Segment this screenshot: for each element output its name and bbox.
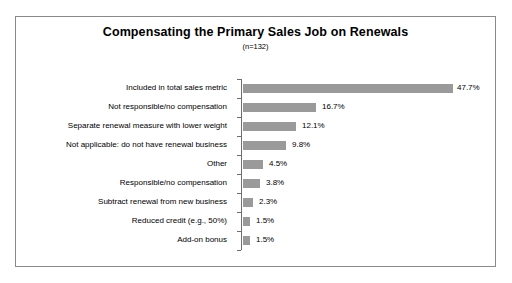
bar-value-label: 2.3%: [259, 196, 277, 208]
axis-tick: [237, 231, 241, 232]
bar[interactable]: [243, 236, 250, 245]
category-label: Other: [207, 158, 227, 170]
category-label: Subtract renewal from new business: [98, 196, 227, 208]
category-label: Add-on bonus: [177, 234, 227, 246]
axis-tick: [237, 98, 241, 99]
bar[interactable]: [243, 198, 253, 207]
axis-tick: [237, 174, 241, 175]
bar-row: Separate renewal measure with lower weig…: [16, 117, 495, 136]
chart-frame: Compensating the Primary Sales Job on Re…: [15, 16, 496, 267]
axis-tick: [237, 193, 241, 194]
bar-value-label: 47.7%: [457, 82, 480, 94]
axis-tick-end: [237, 250, 241, 251]
plot-area: Included in total sales metric 47.7% Not…: [16, 17, 495, 266]
bar[interactable]: [243, 217, 250, 226]
category-label: Separate renewal measure with lower weig…: [68, 120, 227, 132]
bar-row: Responsible/no compensation 3.8%: [16, 174, 495, 193]
bar-value-label: 1.5%: [256, 215, 274, 227]
axis-tick: [237, 117, 241, 118]
axis-tick: [237, 212, 241, 213]
axis-tick: [237, 79, 241, 80]
bar-row: Not responsible/no compensation 16.7%: [16, 98, 495, 117]
category-label: Responsible/no compensation: [120, 177, 227, 189]
bar-row: Other 4.5%: [16, 155, 495, 174]
bar[interactable]: [243, 141, 286, 150]
bar[interactable]: [243, 160, 263, 169]
axis-tick: [237, 136, 241, 137]
category-label: Reduced credit (e.g., 50%): [132, 215, 227, 227]
bar-value-label: 9.8%: [292, 139, 310, 151]
bar-row: Add-on bonus 1.5%: [16, 231, 495, 250]
bar[interactable]: [243, 122, 296, 131]
bar[interactable]: [243, 84, 453, 93]
category-label: Not responsible/no compensation: [108, 101, 227, 113]
bar-value-label: 4.5%: [269, 158, 287, 170]
axis-tick: [237, 155, 241, 156]
category-label: Included in total sales metric: [126, 82, 227, 94]
bar-value-label: 12.1%: [302, 120, 325, 132]
bar-row: Included in total sales metric 47.7%: [16, 79, 495, 98]
bar[interactable]: [243, 103, 316, 112]
bar-row: Reduced credit (e.g., 50%) 1.5%: [16, 212, 495, 231]
category-label: Not applicable: do not have renewal busi…: [66, 139, 227, 151]
bar-row: Not applicable: do not have renewal busi…: [16, 136, 495, 155]
bar-row: Subtract renewal from new business 2.3%: [16, 193, 495, 212]
bar-value-label: 3.8%: [266, 177, 284, 189]
bar[interactable]: [243, 179, 260, 188]
bar-value-label: 16.7%: [322, 101, 345, 113]
bar-value-label: 1.5%: [256, 234, 274, 246]
